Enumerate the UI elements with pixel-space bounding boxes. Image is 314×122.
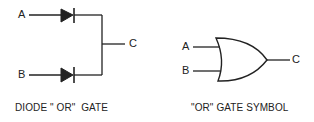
diode-output-c-label: C (129, 38, 137, 49)
gate-input-a-label: A (182, 41, 189, 52)
gate-input-b-label: B (182, 65, 189, 76)
diode-or-gate-caption: DIODE " OR" GATE (15, 103, 108, 113)
or-gate-symbol-icon (193, 38, 290, 81)
gate-output-c-label: C (292, 54, 300, 65)
diode-input-b-label: B (18, 69, 25, 80)
diode-a-icon (61, 8, 74, 23)
diode-input-a-label: A (18, 9, 25, 20)
or-gate-symbol-caption: "OR" GATE SYMBOL (191, 103, 288, 113)
diode-or-circuit (29, 8, 125, 83)
diode-b-icon (61, 67, 74, 83)
